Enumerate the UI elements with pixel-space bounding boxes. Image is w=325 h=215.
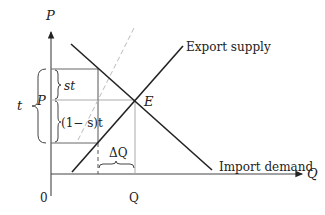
origin-label: 0: [40, 191, 48, 205]
delta-q-label: ΔQ: [109, 146, 128, 160]
delta-q-brace: [99, 161, 134, 168]
one-minus-s-t-label: (1− s)t: [61, 116, 103, 130]
price-label: P: [36, 93, 46, 108]
st-brace: [55, 70, 61, 99]
q-tick-label: Q: [129, 191, 139, 205]
export-supply-label: Export supply: [186, 40, 271, 54]
import-demand-curve: [71, 44, 212, 170]
st-label: st: [64, 79, 75, 93]
equilibrium-label: E: [143, 94, 154, 109]
y-axis-label: P: [45, 8, 55, 23]
diagram-canvas: P Q 0 Export supply Import demand E t P …: [0, 0, 325, 215]
import-demand-label: Import demand: [219, 160, 313, 174]
tariff-label: t: [17, 98, 23, 113]
